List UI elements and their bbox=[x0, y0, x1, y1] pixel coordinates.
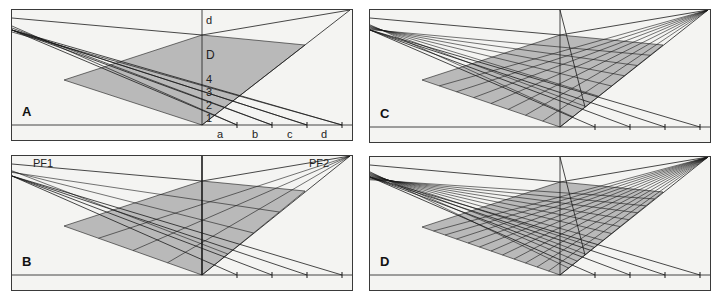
panel-b: B PF1 PF2 bbox=[11, 155, 353, 291]
perspective-drawing-c bbox=[370, 10, 710, 142]
panel-label-b: B bbox=[22, 254, 31, 269]
label-vertical-1: 1 bbox=[206, 112, 212, 124]
label-ground-a: a bbox=[217, 128, 223, 140]
panel-label-c: C bbox=[380, 106, 389, 121]
panel-label-d: D bbox=[380, 254, 389, 269]
label-pf2: PF2 bbox=[309, 157, 329, 169]
label-vertical-4: 4 bbox=[206, 73, 212, 85]
label-vertical-D: D bbox=[206, 48, 215, 62]
label-ground-d: d bbox=[321, 128, 327, 140]
perspective-drawing-d bbox=[370, 157, 710, 290]
perspective-drawing-a bbox=[12, 10, 352, 140]
label-vertical-2: 2 bbox=[206, 99, 212, 111]
label-vertical-3: 3 bbox=[206, 86, 212, 98]
panel-c: C bbox=[369, 9, 711, 143]
panel-d: D bbox=[369, 156, 711, 291]
label-vertical-d: d bbox=[206, 14, 212, 26]
cropped-caption-edge bbox=[0, 0, 715, 2]
label-ground-c: c bbox=[287, 128, 293, 140]
label-pf1: PF1 bbox=[33, 157, 53, 169]
panel-a: A d D 4 3 2 1 a b c d bbox=[11, 9, 353, 141]
perspective-drawing-b bbox=[12, 156, 352, 290]
label-ground-b: b bbox=[252, 128, 258, 140]
panel-label-a: A bbox=[22, 104, 31, 119]
